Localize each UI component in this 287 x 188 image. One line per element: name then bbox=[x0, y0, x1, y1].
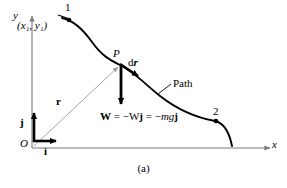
position-vector-r bbox=[34, 67, 118, 146]
position-vector-label: r bbox=[56, 96, 61, 107]
weight-vector-symbol: W bbox=[100, 110, 111, 122]
origin-label: O bbox=[20, 138, 28, 149]
point-two-label: 2 bbox=[213, 106, 219, 117]
j-symbol-2: j bbox=[174, 110, 178, 122]
point-p-label: P bbox=[113, 48, 120, 59]
dr-vector-symbol: r bbox=[134, 56, 138, 68]
point-one-coordinates: (x₁, y₁) bbox=[17, 20, 47, 31]
mg-term: mg bbox=[161, 110, 174, 122]
path-curve bbox=[62, 18, 232, 146]
path-leader-line bbox=[158, 84, 171, 94]
displacement-vector-label: dr bbox=[128, 57, 138, 68]
unit-vector-i-label: i bbox=[44, 146, 47, 157]
weight-equation-label: W = −Wj = −mgj bbox=[100, 111, 178, 122]
path-label: Path bbox=[173, 78, 193, 89]
x-axis-label: x bbox=[272, 139, 277, 150]
unit-vector-j-label: j bbox=[20, 117, 24, 128]
point-one-marker bbox=[67, 18, 72, 23]
point-one-label: 1 bbox=[65, 2, 71, 13]
figure-container: y x O i j 1 (x₁, y₁) P 2 dr r Path W = −… bbox=[0, 0, 287, 188]
point-two-marker bbox=[214, 119, 219, 124]
figure-caption: (a) bbox=[0, 163, 287, 174]
eq-sign-2: = − bbox=[143, 110, 161, 122]
eq-sign-1: = −W bbox=[111, 110, 139, 122]
